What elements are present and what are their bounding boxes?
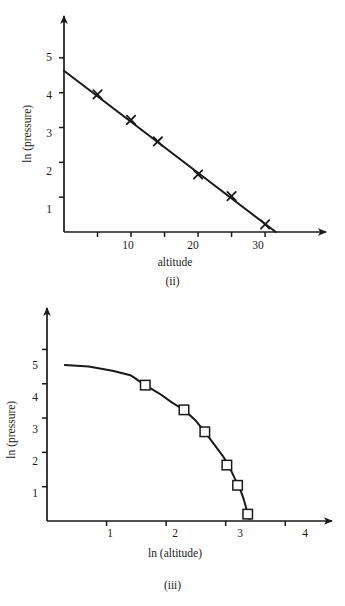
x-tick-label-ii-30: 30 — [247, 240, 269, 252]
y-axis-title-ii: ln (pressure) — [22, 94, 34, 174]
y-tick-label-ii-1: 1 — [38, 204, 52, 216]
figure-ii: 5 4 3 2 1 10 20 30 ln (pressure) altitud… — [0, 0, 345, 300]
x-tick-label-iii-1: 1 — [99, 528, 121, 540]
y-tick-label-ii-2: 2 — [38, 166, 52, 178]
x-tick-label-ii-20: 20 — [182, 240, 204, 252]
figure-caption-iii: (iii) — [0, 580, 345, 592]
figure-iii: 5 4 3 2 1 1 2 3 4 ln (pressure) ln (alti… — [0, 300, 345, 606]
figure-caption-ii: (ii) — [0, 276, 345, 288]
x-tick-label-iii-4: 4 — [294, 528, 316, 540]
plot-area-ii — [0, 0, 345, 300]
y-axis-title-iii: ln (pressure) — [6, 390, 18, 470]
x-tick-label-iii-3: 3 — [229, 528, 251, 540]
y-tick-label-iii-5: 5 — [24, 360, 38, 372]
x-axis-title-ii: altitude — [140, 257, 210, 269]
y-tick-label-ii-5: 5 — [38, 52, 52, 64]
x-axis-title-iii: ln (altitude) — [130, 548, 220, 560]
y-tick-label-iii-2: 2 — [24, 456, 38, 468]
y-tick-label-ii-4: 4 — [38, 90, 52, 102]
y-tick-label-iii-3: 3 — [24, 424, 38, 436]
y-tick-label-ii-3: 3 — [38, 128, 52, 140]
x-tick-label-ii-10: 10 — [117, 240, 139, 252]
y-tick-label-iii-4: 4 — [24, 392, 38, 404]
x-tick-label-iii-2: 2 — [164, 528, 186, 540]
plot-area-iii — [0, 300, 345, 606]
y-tick-label-iii-1: 1 — [24, 488, 38, 500]
